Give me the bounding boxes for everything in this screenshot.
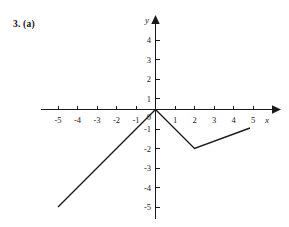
y-axis-tick-labels: 4 3 2 1 -1 -2 -3 -4 -5 [144,35,152,212]
x-tick-label--2: -2 [113,115,120,125]
graph-figure: -5 -4 -3 -2 -1 1 2 3 4 5 4 3 2 1 -1 -2 -… [0,0,289,227]
plot-curve [58,110,250,208]
x-tick-label-1: 1 [173,115,177,125]
x-axis-arrow-icon [272,105,281,113]
y-tick-label--5: -5 [144,202,151,212]
x-tick-label-2: 2 [192,115,196,125]
y-tick-label--1: -1 [144,124,151,134]
y-tick-label--3: -3 [144,163,151,173]
y-tick-label-3: 3 [147,55,151,65]
y-tick-label--4: -4 [144,183,152,193]
y-axis-ticks [156,40,160,207]
x-tick-label-4: 4 [231,115,236,125]
x-tick-label-3: 3 [212,115,216,125]
x-axis-label: x [264,115,269,125]
figure-page: 3. (a) [0,0,289,227]
x-tick-label--3: -3 [93,115,100,125]
y-axis-label: y [144,15,149,25]
x-tick-label--4: -4 [74,115,82,125]
y-axis-arrow-icon [151,15,159,24]
y-tick-label-1: 1 [147,94,151,104]
y-tick-label-2: 2 [147,74,151,84]
y-tick-label--2: -2 [144,144,151,154]
x-axis-tick-labels: -5 -4 -3 -2 -1 1 2 3 4 5 [54,115,255,125]
x-tick-label--1: -1 [132,115,139,125]
y-tick-label-4: 4 [147,35,152,45]
x-tick-label-5: 5 [251,115,255,125]
x-tick-label--5: -5 [54,115,61,125]
